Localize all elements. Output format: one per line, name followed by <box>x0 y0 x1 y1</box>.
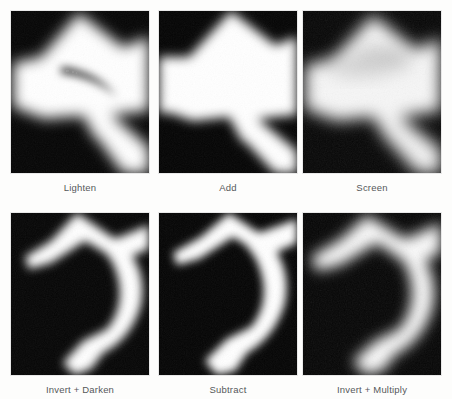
panel-image-invert-multiply <box>302 212 442 376</box>
panel-image-lighten <box>10 10 150 174</box>
panel-caption-invert-multiply: Invert + Multiply <box>282 384 452 395</box>
panel-image-add <box>158 10 298 174</box>
panel-grid: Lighten <box>0 0 452 399</box>
panel-image-invert-darken <box>10 212 150 376</box>
panel-image-screen <box>302 10 442 174</box>
blend-mode-figure: Lighten <box>0 0 452 399</box>
panel-caption-screen: Screen <box>282 182 452 193</box>
panel-image-subtract <box>158 212 298 376</box>
